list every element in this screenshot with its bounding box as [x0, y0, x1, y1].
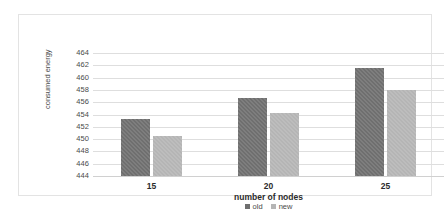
y-axis-title: consumed energy: [43, 49, 52, 109]
bar-new-20: [270, 113, 299, 176]
legend-swatch-icon: [245, 204, 250, 209]
chart-screenshot: consumed energy 464462460458456454452450…: [0, 0, 448, 211]
bar-old-25: [355, 68, 384, 176]
y-tick-label: 462: [53, 60, 89, 69]
y-tick-label: 454: [53, 110, 89, 119]
bar-old-20: [238, 98, 267, 176]
gridline: [93, 176, 444, 177]
chart-legend: oldnew: [93, 202, 444, 211]
y-tick-label: 450: [53, 134, 89, 143]
bar-new-15: [153, 136, 182, 176]
y-tick-label: 464: [53, 48, 89, 57]
x-tick-label: 20: [239, 181, 299, 191]
y-tick-label: 444: [53, 171, 89, 180]
legend-item-old: old: [245, 202, 263, 211]
x-tick-label: 15: [122, 181, 182, 191]
chart-frame: consumed energy 464462460458456454452450…: [18, 14, 432, 196]
y-tick-label: 446: [53, 159, 89, 168]
bar-old-15: [121, 119, 150, 176]
y-tick-label: 456: [53, 97, 89, 106]
y-tick-label: 448: [53, 146, 89, 155]
legend-swatch-icon: [271, 204, 276, 209]
x-axis-title: number of nodes: [93, 192, 444, 202]
y-tick-label: 452: [53, 122, 89, 131]
x-tick-label: 25: [356, 181, 416, 191]
bar-new-25: [387, 90, 416, 176]
legend-label: new: [279, 202, 293, 211]
plot-area: [93, 53, 444, 176]
legend-item-new: new: [271, 202, 293, 211]
y-tick-label: 460: [53, 73, 89, 82]
y-tick-label: 458: [53, 85, 89, 94]
legend-label: old: [253, 202, 263, 211]
